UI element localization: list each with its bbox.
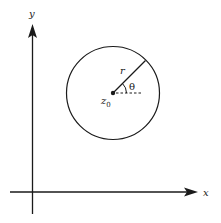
complex-plane-diagram: y x r θ z0 bbox=[0, 0, 221, 223]
x-axis-label: x bbox=[203, 187, 209, 198]
angle-label: θ bbox=[129, 81, 135, 92]
center-label-subscript: 0 bbox=[106, 101, 110, 109]
labels-layer: y x r θ z0 bbox=[0, 0, 221, 223]
y-axis-label: y bbox=[28, 8, 35, 19]
radius-label: r bbox=[120, 65, 126, 76]
center-label: z0 bbox=[100, 95, 111, 109]
